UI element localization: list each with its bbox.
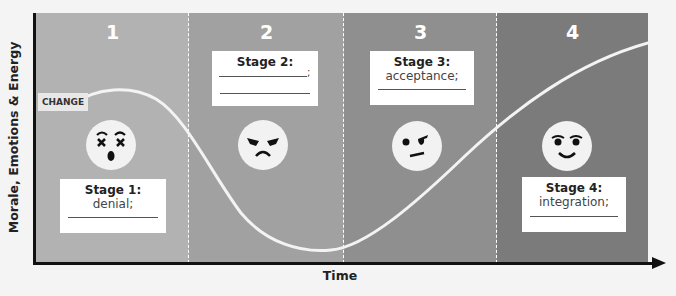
skeptical-face-icon — [392, 121, 442, 171]
chart-area: 1 2 3 4 — [36, 13, 648, 263]
stage-2-blank — [220, 93, 310, 94]
stage-4-title: Stage 4: — [522, 181, 626, 195]
stage-2-text: ; — [307, 67, 310, 78]
change-label: CHANGE — [38, 93, 88, 111]
stage-2-blank — [219, 76, 307, 77]
x-axis-arrow-icon — [652, 257, 666, 269]
stage-3-title: Stage 3: — [370, 55, 474, 69]
stage-3-blank — [378, 89, 466, 90]
stage-3-box: Stage 3: acceptance; — [370, 51, 474, 105]
y-axis-label: Morale, Emotions & Energy — [6, 13, 21, 263]
stage-1-title: Stage 1: — [60, 183, 166, 197]
y-axis — [33, 13, 36, 265]
stage-4-text: integration; — [522, 195, 626, 209]
stage-3-text: acceptance; — [370, 69, 474, 83]
x-axis-label: Time — [300, 268, 380, 283]
stage-1-box: Stage 1: denial; — [60, 179, 166, 233]
stage-2-box: Stage 2: ; — [212, 51, 318, 106]
stage-4-blank — [530, 216, 618, 217]
stage-1-blank — [68, 217, 158, 218]
stage-4-box: Stage 4: integration; — [522, 177, 626, 232]
stage-1-text: denial; — [60, 197, 166, 211]
angry-face-icon — [238, 120, 288, 170]
shocked-face-icon — [86, 120, 136, 170]
x-axis — [33, 262, 655, 265]
happy-face-icon — [542, 121, 592, 171]
stage-2-title: Stage 2: — [212, 55, 318, 69]
